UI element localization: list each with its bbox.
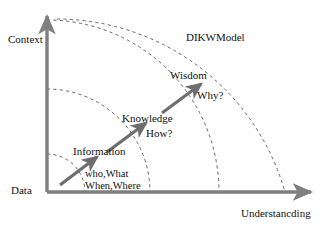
stage-question-data-line-1: who,What	[85, 168, 141, 180]
x-axis-label: Understancding	[241, 207, 311, 219]
diagram-title: DIKWModel	[186, 31, 245, 43]
arrow-knowledge-to-wisdom	[162, 84, 201, 113]
stage-question-knowledge: How?	[146, 127, 172, 139]
stage-question-data: who,What When,Where	[85, 168, 141, 192]
stage-question-data-line-2: When,Where	[85, 180, 141, 192]
stage-label-knowledge: Knowledge	[122, 112, 173, 124]
stage-label-wisdom: Wisdom	[170, 69, 207, 81]
stage-question-wisdom: Why?	[197, 89, 223, 101]
y-axis-label: Context	[8, 33, 43, 45]
stage-label-information: Information	[73, 145, 126, 157]
dikw-model-diagram: Context Understancding DIKWModel Data wh…	[0, 0, 325, 230]
arc-data	[47, 154, 85, 192]
arc-knowledge	[47, 20, 219, 192]
stage-label-data: Data	[11, 184, 32, 196]
